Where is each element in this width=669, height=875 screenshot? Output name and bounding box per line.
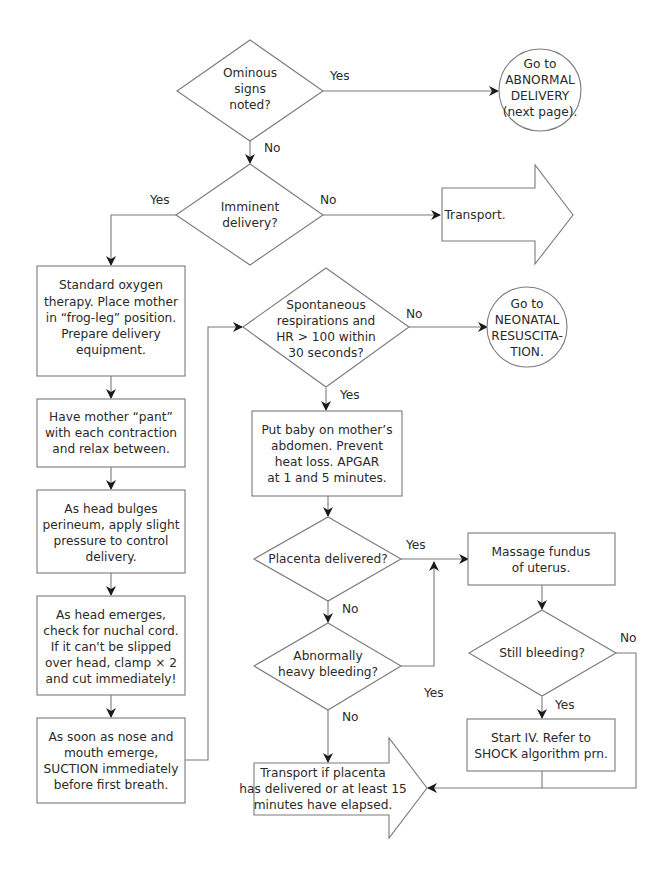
decision-spontaneous-respirations: Spontaneous respirations and HR > 100 wi… <box>243 268 409 387</box>
node-text: Go to <box>523 57 556 71</box>
node-text: ABNORMAL <box>505 73 575 87</box>
node-text: As soon as nose and <box>49 730 174 744</box>
node-text: SHOCK algorithm prn. <box>474 747 608 761</box>
label-no: No <box>264 141 281 155</box>
node-text: minutes have elapsed. <box>254 798 393 812</box>
label-yes: Yes <box>149 193 170 207</box>
edge-suction-spont <box>185 327 242 760</box>
action-transport-if-placenta: Transport if placenta has delivered or a… <box>239 738 427 838</box>
step-massage-fundus: Massage fundus of uterus. <box>468 533 615 585</box>
node-text: and relax between. <box>52 442 170 456</box>
node-text: Imminent <box>221 200 280 214</box>
action-transport: Transport. <box>442 165 573 264</box>
terminal-abnormal-delivery: Go to ABNORMAL DELIVERY (next page). <box>499 49 581 131</box>
label-no: No <box>406 307 423 321</box>
decision-placenta-delivered: Placenta delivered? <box>254 517 401 601</box>
decision-ominous-signs: Ominous signs noted? <box>177 40 323 141</box>
node-text: 30 seconds? <box>288 346 364 360</box>
node-text: abdomen. Prevent <box>271 439 383 453</box>
node-text: DELIVERY <box>511 89 570 103</box>
node-text: (next page). <box>503 105 578 119</box>
node-text: before first breath. <box>54 778 169 792</box>
node-text: has delivered or at least 15 <box>239 782 406 796</box>
node-text: of uterus. <box>512 561 571 575</box>
node-text: therapy. Place mother <box>44 295 179 309</box>
node-text: mouth emerge, <box>64 746 158 760</box>
node-text: Still bleeding? <box>499 646 585 660</box>
step-pant: Have mother “pant” with each contraction… <box>37 399 185 467</box>
node-text: delivery. <box>85 550 136 564</box>
node-text: If it can't be slipped <box>51 640 172 654</box>
step-oxygen-therapy: Standard oxygen therapy. Place mother in… <box>37 266 185 376</box>
terminal-neonatal-resuscitation: Go to NEONATAL RESUSCITA- TION. <box>487 287 567 367</box>
node-text: Spontaneous <box>286 298 366 312</box>
label-yes: Yes <box>554 698 575 712</box>
label-no: No <box>342 710 359 724</box>
step-suction: As soon as nose and mouth emerge, SUCTIO… <box>37 718 185 803</box>
label-no: No <box>320 193 337 207</box>
node-text: in “frog-leg” position. <box>46 311 176 325</box>
node-text: Standard oxygen <box>59 278 163 292</box>
node-text: respirations and <box>277 314 376 328</box>
node-text: and cut immediately! <box>46 672 177 686</box>
node-text: Put baby on mother’s <box>261 423 392 437</box>
node-text: Have mother “pant” <box>49 410 173 424</box>
node-text: heat loss. APGAR <box>275 455 380 469</box>
node-text: perineum, apply slight <box>43 518 180 532</box>
node-text: equipment. <box>76 343 146 357</box>
node-text: Prepare delivery <box>61 327 161 341</box>
node-text: Go to <box>510 297 543 311</box>
decision-still-bleeding: Still bleeding? <box>469 610 616 696</box>
step-baby-on-abdomen: Put baby on mother’s abdomen. Prevent he… <box>252 411 402 496</box>
step-nuchal-cord: As head emerges, check for nuchal cord. … <box>37 596 185 695</box>
node-text: over head, clamp × 2 <box>45 656 177 670</box>
node-text: Transport. <box>443 208 505 222</box>
node-text: with each contraction <box>45 426 177 440</box>
step-head-bulges: As head bulges perineum, apply slight pr… <box>37 490 185 573</box>
node-text: Start IV. Refer to <box>491 731 591 745</box>
node-text: at 1 and 5 minutes. <box>267 471 386 485</box>
label-yes: Yes <box>339 388 360 402</box>
node-text: RESUSCITA- <box>491 329 563 343</box>
node-text: Transport if placenta <box>259 766 385 780</box>
node-text: delivery? <box>222 216 277 230</box>
label-yes: Yes <box>329 69 350 83</box>
node-text: check for nuchal cord. <box>43 624 178 638</box>
label-yes: Yes <box>405 538 426 552</box>
edge-heavy-yes <box>401 562 434 666</box>
node-text: HR > 100 within <box>276 330 376 344</box>
decision-imminent-delivery: Imminent delivery? <box>176 164 323 265</box>
node-text: TION. <box>509 345 544 359</box>
node-text: noted? <box>229 98 271 112</box>
node-text: As head emerges, <box>56 608 166 622</box>
label-yes: Yes <box>423 686 444 700</box>
node-text: signs <box>234 82 266 96</box>
edge-imminent-oxygen <box>111 215 176 265</box>
node-text: Massage fundus <box>492 545 591 559</box>
node-text: As head bulges <box>64 502 157 516</box>
node-text: NEONATAL <box>495 313 560 327</box>
flowchart-canvas: Ominous signs noted? Yes No Go to ABNORM… <box>0 0 669 875</box>
node-text: Ominous <box>223 66 277 80</box>
node-text: heavy bleeding? <box>278 665 378 679</box>
node-text: Abnormally <box>293 649 362 663</box>
label-no: No <box>620 631 637 645</box>
node-text: Placenta delivered? <box>268 552 387 566</box>
node-text: SUCTION immediately <box>44 762 179 776</box>
label-no: No <box>342 602 359 616</box>
decision-abnormally-heavy-bleeding: Abnormally heavy bleeding? <box>254 623 401 710</box>
node-text: pressure to control <box>54 534 169 548</box>
step-start-iv: Start IV. Refer to SHOCK algorithm prn. <box>467 719 615 771</box>
